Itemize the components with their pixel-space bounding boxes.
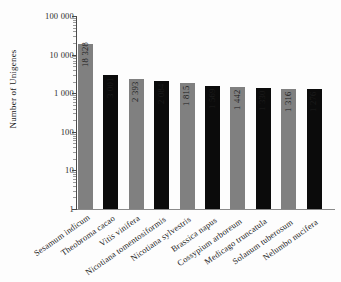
y-axis-minor-tick: [73, 22, 76, 23]
y-axis-minor-tick: [73, 140, 76, 141]
y-axis-minor-tick: [73, 176, 76, 177]
y-axis-minor-tick: [73, 58, 76, 59]
y-axis-minor-tick: [73, 61, 76, 62]
bar-value-label: 3 001: [105, 77, 115, 98]
y-axis-minor-tick: [73, 97, 76, 98]
y-axis-minor-tick: [73, 18, 76, 19]
y-axis-minor-tick: [73, 36, 76, 37]
y-axis-minor-tick: [73, 70, 76, 71]
y-axis-title: Number of Unigenes: [8, 34, 18, 144]
y-axis-minor-tick: [73, 99, 76, 100]
y-axis-minor-tick: [73, 159, 76, 160]
y-axis-minor-tick: [73, 191, 76, 192]
y-axis-minor-tick: [73, 138, 76, 139]
y-axis-minor-tick: [73, 82, 76, 83]
y-axis-minor-tick: [73, 147, 76, 148]
bar-value-label: 1 330: [257, 91, 267, 112]
y-axis-minor-tick: [73, 56, 76, 57]
y-axis-minor-tick: [73, 113, 76, 114]
y-axis-minor-tick: [73, 172, 76, 173]
y-axis-minor-tick: [73, 28, 76, 29]
y-axis-tick-label: 10 000: [49, 50, 74, 60]
bar-value-label: 1 569: [207, 88, 217, 109]
y-axis-minor-tick: [73, 120, 76, 121]
y-axis-tick-label: 100 000: [45, 11, 74, 21]
x-axis-category-labels: Sesamum indicumTheobroma cacaoVitis vini…: [0, 209, 341, 282]
y-axis-minor-tick: [73, 174, 76, 175]
y-axis-minor-tick: [73, 152, 76, 153]
bar: [78, 44, 93, 209]
y-axis-minor-tick: [73, 186, 76, 187]
y-axis-minor-tick: [73, 31, 76, 32]
y-axis-minor-tick: [73, 20, 76, 21]
bar-value-label: 2 393: [130, 81, 140, 102]
bar-value-label: 1 815: [181, 86, 191, 107]
bar-value-label: 2 084: [156, 83, 166, 104]
y-axis-minor-tick: [73, 136, 76, 137]
bar-value-label: 18 328: [80, 42, 90, 67]
y-axis-minor-tick: [73, 25, 76, 26]
y-axis-minor-tick: [73, 109, 76, 110]
y-axis-minor-tick: [73, 63, 76, 64]
y-axis-minor-tick: [73, 102, 76, 103]
y-axis-tick-label: 1 000: [54, 88, 74, 98]
y-axis-minor-tick: [73, 75, 76, 76]
y-axis-minor-tick: [73, 95, 76, 96]
y-axis-minor-tick: [73, 197, 76, 198]
bar-value-label: 1 276: [308, 91, 318, 112]
y-axis-minor-tick: [73, 105, 76, 106]
y-axis-minor-tick: [73, 179, 76, 180]
y-axis-minor-tick: [73, 66, 76, 67]
y-axis-minor-tick: [73, 43, 76, 44]
y-axis-minor-tick: [73, 182, 76, 183]
y-axis-minor-tick: [73, 143, 76, 144]
y-axis-minor-tick: [73, 134, 76, 135]
bar-value-label: 1 442: [232, 89, 242, 110]
plot-area: 18 3283 0012 3932 0841 8151 5691 4421 33…: [77, 16, 335, 209]
bar-chart: 100 00010 0001 000100101 Number of Unige…: [0, 0, 341, 282]
bar-value-label: 1 316: [283, 91, 293, 112]
